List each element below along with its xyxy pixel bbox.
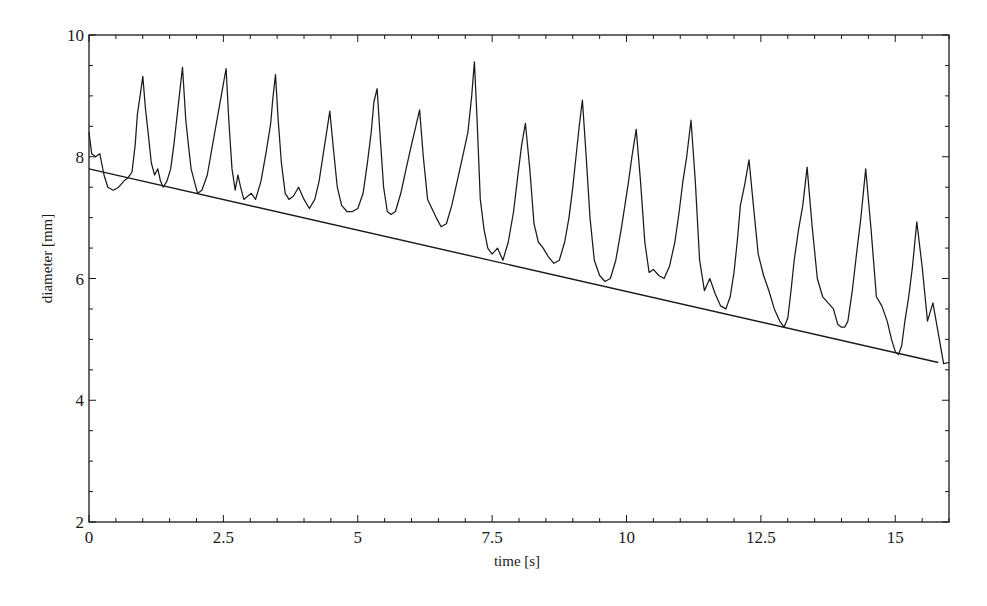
trend-line [89, 169, 938, 363]
plot-frame [89, 35, 949, 522]
x-tick-label: 2.5 [213, 528, 234, 547]
chart-canvas: 02.557.51012.515 246810 time [s] diamete… [0, 0, 987, 606]
axis-ticks [89, 35, 949, 522]
y-tick-label: 10 [67, 26, 84, 45]
x-tick-label: 5 [354, 528, 363, 547]
y-tick-label: 4 [76, 391, 85, 410]
y-axis-label: diameter [mm] [39, 214, 55, 304]
line-chart: 02.557.51012.515 246810 time [s] diamete… [0, 0, 987, 606]
plot-series [89, 62, 949, 364]
y-tick-label: 2 [76, 513, 85, 532]
diameter-series-line [89, 62, 949, 364]
x-tick-label: 15 [887, 528, 904, 547]
x-tick-label: 0 [85, 528, 94, 547]
x-tick-label: 10 [618, 528, 635, 547]
x-tick-label: 7.5 [482, 528, 503, 547]
y-tick-label: 8 [76, 148, 85, 167]
x-tick-label: 12.5 [746, 528, 776, 547]
y-axis-tick-labels: 246810 [67, 26, 85, 532]
y-tick-label: 6 [76, 270, 85, 289]
x-axis-label: time [s] [494, 553, 540, 569]
x-axis-tick-labels: 02.557.51012.515 [85, 528, 904, 547]
